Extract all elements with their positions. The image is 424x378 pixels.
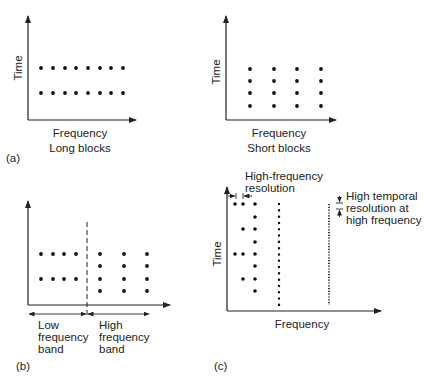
panel-caption: Long blocks [49, 142, 111, 154]
panel-c-variable-resolution: Time Frequency High-frequency resolution… [211, 170, 422, 372]
dot-grid-high-band [98, 252, 149, 293]
panel-a-long-blocks: Time Frequency Long blocks (a) [6, 16, 136, 164]
panel-caption: Short blocks [247, 142, 311, 154]
dot-grid-low-band [39, 252, 78, 281]
time-resolution-label-line3: high frequency [346, 214, 422, 226]
high-band-label-line2: frequency [99, 331, 150, 343]
time-resolution-label-line1: High temporal [346, 190, 418, 202]
dot-grid-short-blocks [248, 67, 323, 108]
panel-label: (b) [16, 360, 30, 372]
x-axis-label: Frequency [53, 127, 108, 139]
y-axis-label: Time [210, 59, 222, 84]
low-band-label-line2: frequency [38, 331, 89, 343]
low-band-label-line1: Low [38, 319, 60, 331]
x-axis-label: Frequency [252, 127, 307, 139]
x-axis-label: Frequency [275, 318, 330, 330]
dot-grid-variable [233, 202, 257, 293]
panel-b-subband: Low frequency band High frequency band (… [16, 201, 170, 372]
freq-resolution-label-line2: resolution [245, 182, 295, 194]
high-band-label-line1: High [99, 319, 123, 331]
low-band-label-line3: band [38, 343, 64, 355]
freq-resolution-label-line1: High-frequency [245, 170, 323, 182]
y-axis-label: Time [12, 55, 24, 80]
time-resolution-label-line2: resolution at [346, 202, 409, 214]
panel-a-short-blocks: Time Frequency Short blocks [210, 16, 336, 154]
time-frequency-tiling-figure: Time Frequency Long blocks (a) Time Freq… [0, 0, 424, 378]
dot-grid-long-blocks [39, 66, 125, 95]
panel-label: (a) [6, 152, 20, 164]
panel-label: (c) [214, 360, 228, 372]
high-band-label-line3: band [99, 343, 125, 355]
y-axis-label: Time [211, 241, 223, 266]
